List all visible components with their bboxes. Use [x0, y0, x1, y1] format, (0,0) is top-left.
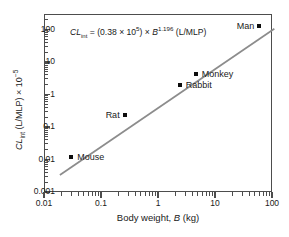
y-axis-title-units: (L/MLP) × 10 — [14, 77, 24, 132]
y-tick-minor — [44, 67, 48, 68]
y-tick-minor — [44, 95, 48, 96]
y-tick-minor — [44, 132, 48, 133]
y-axis-title-symbol: CL — [14, 139, 24, 151]
y-tick-minor — [44, 42, 48, 43]
y-tick-minor — [44, 39, 48, 40]
y-tick-minor — [44, 107, 48, 108]
x-axis-title: Body weight, B (kg) — [44, 212, 272, 223]
x-tick-minor — [98, 192, 99, 196]
x-tick-minor — [242, 192, 243, 196]
y-tick-minor — [44, 63, 48, 64]
data-point-label-man: Man — [237, 21, 255, 31]
y-tick-minor — [44, 172, 48, 173]
x-axis-title-post: (kg) — [180, 212, 199, 223]
y-tick-minor — [44, 117, 48, 118]
y-tick-minor — [44, 128, 48, 129]
scatter-chart-figure: CLint (L/MLP) × 10−5 Body weight, B (kg)… — [0, 0, 289, 237]
x-tick-minor — [71, 192, 72, 196]
y-tick-minor — [44, 74, 48, 75]
y-axis-title-exponent: −5 — [12, 70, 19, 77]
y-tick-label: 100 — [41, 24, 55, 34]
x-tick-minor — [269, 192, 270, 196]
x-tick-minor — [206, 192, 207, 196]
data-point-label-rabbit: Rabbit — [186, 80, 212, 90]
y-tick-minor — [44, 143, 48, 144]
x-axis-title-pre: Body weight, — [117, 212, 174, 223]
y-tick-minor — [44, 97, 48, 98]
data-point-label-mouse: Mouse — [77, 152, 104, 162]
plot-area — [44, 14, 272, 192]
data-point-label-monkey: Monkey — [202, 69, 234, 79]
y-tick-minor — [44, 52, 48, 53]
equation-rhs-a: = (0.38 × 10 — [87, 27, 136, 37]
y-tick-minor — [44, 78, 48, 79]
y-tick-minor — [44, 32, 48, 33]
x-tick-minor — [212, 192, 213, 196]
y-tick-minor — [44, 176, 48, 177]
y-tick-minor — [44, 164, 48, 165]
y-tick-minor — [44, 36, 48, 37]
y-tick-minor — [44, 160, 48, 161]
y-tick-minor — [44, 99, 48, 100]
y-tick-minor — [44, 14, 48, 15]
data-point-rabbit[interactable] — [178, 83, 182, 87]
equation-variable-exponent: 1.196 — [158, 25, 173, 32]
x-tick-minor — [145, 192, 146, 196]
x-tick-minor — [83, 192, 84, 196]
equation-lhs: CL — [70, 27, 81, 37]
y-tick-minor — [44, 84, 48, 85]
x-tick-minor — [140, 192, 141, 196]
data-point-monkey[interactable] — [194, 72, 198, 76]
y-tick-minor — [44, 101, 48, 102]
equation-units: (L/MLP) — [173, 27, 206, 37]
y-tick-minor — [44, 46, 48, 47]
y-tick-minor — [44, 149, 48, 150]
y-tick-minor — [44, 71, 48, 72]
y-tick-minor — [44, 134, 48, 135]
y-tick-minor — [44, 30, 48, 31]
x-tick-minor — [88, 192, 89, 196]
x-tick-minor — [152, 192, 153, 196]
x-tick-minor — [118, 192, 119, 196]
y-tick-minor — [44, 19, 48, 20]
x-tick-minor — [135, 192, 136, 196]
y-tick-minor — [44, 166, 48, 167]
x-tick-minor — [78, 192, 79, 196]
y-tick-minor — [44, 111, 48, 112]
y-axis-title-subscript: int — [19, 132, 26, 139]
y-tick-minor — [44, 69, 48, 70]
equation-rhs-b: ) × — [140, 27, 153, 37]
x-tick-minor — [232, 192, 233, 196]
x-tick-minor — [259, 192, 260, 196]
x-tick-minor — [149, 192, 150, 196]
y-tick-minor — [44, 182, 48, 183]
x-tick-label: 0.1 — [95, 198, 107, 208]
x-tick-minor — [254, 192, 255, 196]
x-tick-minor — [202, 192, 203, 196]
x-tick-label: 1 — [156, 198, 161, 208]
x-tick-minor — [128, 192, 129, 196]
data-point-rat[interactable] — [123, 113, 127, 117]
y-tick-minor — [44, 130, 48, 131]
y-tick-minor — [44, 139, 48, 140]
y-tick-minor — [44, 169, 48, 170]
x-tick-minor — [192, 192, 193, 196]
equation-annotation: CLint = (0.38 × 105) × B1.196 (L/MLP) — [70, 25, 206, 39]
data-point-label-rat: Rat — [106, 110, 120, 120]
y-tick-minor — [44, 34, 48, 35]
y-tick-label: 1 — [50, 89, 55, 99]
x-tick-minor — [175, 192, 176, 196]
x-tick-minor — [155, 192, 156, 196]
x-tick-minor — [61, 192, 62, 196]
x-tick-minor — [266, 192, 267, 196]
x-tick-minor — [92, 192, 93, 196]
x-tick-minor — [263, 192, 264, 196]
data-point-mouse[interactable] — [69, 155, 73, 159]
data-point-man[interactable] — [257, 24, 261, 28]
x-tick-label: 0.01 — [36, 198, 53, 208]
y-tick-minor — [44, 104, 48, 105]
x-tick-minor — [185, 192, 186, 196]
x-tick-label: 100 — [265, 198, 279, 208]
y-tick-minor — [44, 65, 48, 66]
x-tick-minor — [249, 192, 250, 196]
